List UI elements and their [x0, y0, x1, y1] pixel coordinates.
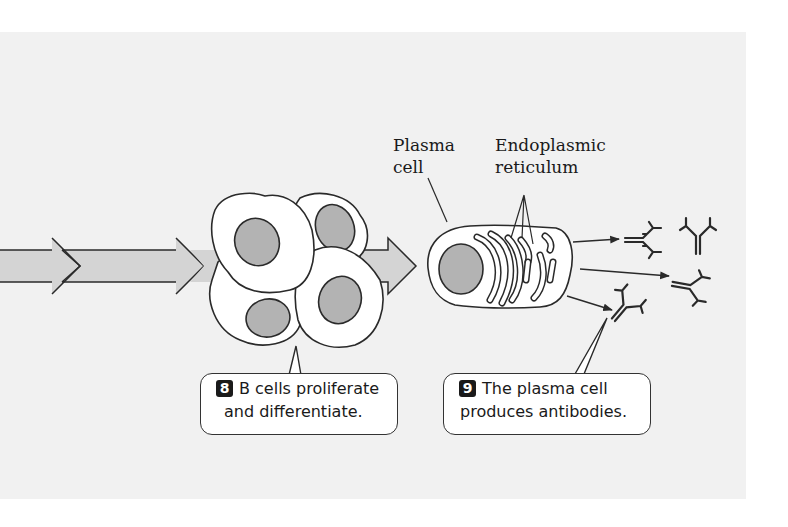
step-number-badge: 9: [459, 380, 476, 397]
callout-text-line1: The plasma cell: [482, 379, 608, 398]
endoplasmic-reticulum-label: Endoplasmic reticulum: [495, 134, 606, 178]
b-cell-cluster: [210, 193, 383, 347]
antibody-icon: [600, 281, 651, 332]
callout-step-9: 9The plasma cell produces antibodies.: [443, 373, 651, 435]
label-line: reticulum: [495, 157, 578, 177]
antibody-icon: [680, 218, 716, 254]
label-line: Endoplasmic: [495, 135, 606, 155]
step-number-badge: 8: [216, 380, 233, 397]
plasma-cell-nucleus: [439, 244, 483, 294]
secretion-arrows: [567, 239, 669, 310]
diagram-canvas: [0, 0, 788, 527]
antibody-icon: [669, 266, 711, 308]
callout-text-line1: B cells proliferate: [239, 379, 379, 398]
label-line: cell: [393, 157, 423, 177]
callout-step-8: 8B cells proliferate and differentiate.: [200, 373, 398, 435]
antibody-icon: [625, 222, 661, 258]
plasma-cell-leader: [428, 178, 447, 222]
callout-text-line2: produces antibodies.: [459, 400, 640, 423]
label-line: Plasma: [393, 135, 455, 155]
plasma-cell: [428, 225, 572, 308]
plasma-cell-label: Plasma cell: [393, 134, 455, 178]
callout-text-line2: and differentiate.: [216, 400, 387, 423]
flow-arrow-2: [62, 238, 204, 294]
